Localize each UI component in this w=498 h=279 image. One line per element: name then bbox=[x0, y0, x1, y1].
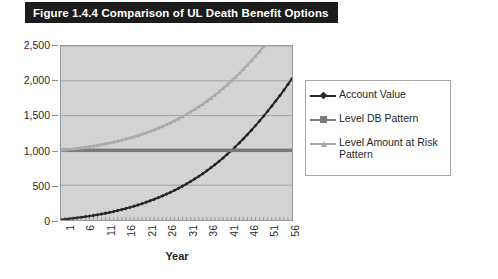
y-axis-tick-mark bbox=[52, 80, 58, 81]
y-axis-tick-mark bbox=[52, 221, 58, 222]
marker-square bbox=[238, 149, 241, 152]
marker-square bbox=[177, 149, 180, 152]
marker-square bbox=[213, 149, 216, 152]
x-axis-tick-label: 56 bbox=[289, 225, 301, 237]
legend-item-label: Level DB Pattern bbox=[339, 112, 418, 124]
x-axis-tick-label: 11 bbox=[105, 225, 117, 236]
x-axis-tick-label: 1 bbox=[64, 225, 76, 231]
marker-square bbox=[153, 149, 156, 152]
legend-marker-square-icon bbox=[310, 113, 336, 127]
x-axis-tick-label: 21 bbox=[146, 225, 158, 237]
marker-square bbox=[144, 149, 147, 152]
marker-square bbox=[96, 149, 99, 152]
marker-diamond bbox=[108, 211, 112, 215]
series-1 bbox=[61, 77, 292, 220]
marker-square bbox=[161, 149, 164, 152]
legend-marker-glyph bbox=[320, 116, 327, 123]
legend-marker-glyph bbox=[321, 141, 327, 147]
marker-square bbox=[266, 149, 269, 152]
marker-square bbox=[185, 149, 188, 152]
plot-area bbox=[60, 45, 293, 221]
marker-square bbox=[189, 149, 192, 152]
marker-square bbox=[136, 149, 139, 152]
marker-square bbox=[246, 149, 249, 152]
marker-square bbox=[169, 149, 172, 152]
legend-marker-triangle-icon bbox=[310, 137, 336, 151]
page-title: Figure 1.4.4 Comparison of UL Death Bene… bbox=[33, 7, 329, 19]
marker-square bbox=[157, 149, 160, 152]
x-axis-tick-label: 6 bbox=[84, 225, 96, 231]
marker-diamond bbox=[100, 212, 104, 216]
legend-item[interactable]: Account Value bbox=[310, 88, 446, 103]
y-axis-tick-mark bbox=[52, 151, 58, 152]
marker-square bbox=[221, 149, 224, 152]
marker-square bbox=[262, 149, 265, 152]
legend-item[interactable]: Level Amount at Risk Pattern bbox=[310, 136, 446, 160]
figure-title-banner: Figure 1.4.4 Comparison of UL Death Bene… bbox=[25, 2, 338, 23]
x-axis-tick-label: 51 bbox=[268, 225, 280, 237]
marker-square bbox=[88, 149, 91, 152]
marker-square bbox=[108, 149, 111, 152]
marker-square bbox=[165, 149, 168, 152]
y-axis-tick-label: 500 bbox=[32, 180, 50, 192]
marker-square bbox=[193, 149, 196, 152]
marker-square bbox=[100, 149, 103, 152]
x-axis-tick-label: 36 bbox=[207, 225, 219, 237]
marker-square bbox=[205, 149, 208, 152]
marker-square bbox=[250, 149, 253, 152]
legend-item-label: Account Value bbox=[339, 88, 406, 100]
x-axis-title: Year bbox=[60, 250, 294, 262]
chart-legend: Account ValueLevel DB PatternLevel Amoun… bbox=[305, 80, 451, 176]
x-axis-tick-label: 41 bbox=[228, 225, 240, 237]
marker-diamond bbox=[96, 213, 100, 217]
marker-square bbox=[112, 149, 115, 152]
y-axis: 05001,0001,5002,0002,500 bbox=[0, 24, 58, 244]
marker-square bbox=[197, 149, 200, 152]
legend-item-label: Level Amount at Risk Pattern bbox=[339, 136, 446, 160]
x-axis-tick-label: 26 bbox=[166, 225, 178, 237]
marker-square bbox=[217, 149, 220, 152]
marker-square bbox=[242, 149, 245, 152]
x-axis-tick-label: 46 bbox=[248, 225, 260, 237]
marker-square bbox=[254, 149, 257, 152]
marker-square bbox=[120, 149, 123, 152]
x-axis-tick-label: 16 bbox=[125, 225, 137, 237]
marker-diamond bbox=[104, 211, 108, 215]
marker-square bbox=[181, 149, 184, 152]
marker-square bbox=[84, 149, 87, 152]
x-axis-tick-label: 31 bbox=[187, 225, 199, 237]
marker-square bbox=[278, 149, 281, 152]
marker-square bbox=[92, 149, 95, 152]
marker-square bbox=[140, 149, 143, 152]
y-axis-tick-label: 0 bbox=[44, 215, 50, 227]
marker-square bbox=[274, 149, 277, 152]
legend-marker-glyph bbox=[320, 92, 328, 100]
plot-svg bbox=[61, 46, 292, 220]
y-axis-tick-label: 1,000 bbox=[24, 145, 50, 157]
marker-square bbox=[124, 149, 127, 152]
marker-square bbox=[230, 149, 233, 152]
marker-square bbox=[132, 149, 135, 152]
marker-square bbox=[209, 149, 212, 152]
series-3 bbox=[61, 46, 292, 152]
legend-marker-diamond-icon bbox=[310, 89, 336, 103]
marker-square bbox=[258, 149, 261, 152]
marker-square bbox=[104, 149, 107, 152]
y-axis-tick-mark bbox=[52, 115, 58, 116]
series-2 bbox=[61, 149, 292, 152]
marker-square bbox=[234, 149, 237, 152]
marker-square bbox=[270, 149, 273, 152]
marker-diamond bbox=[92, 214, 96, 218]
marker-square bbox=[116, 149, 119, 152]
marker-square bbox=[201, 149, 204, 152]
series-line bbox=[61, 46, 292, 150]
y-axis-tick-label: 2,500 bbox=[24, 39, 50, 51]
y-axis-tick-mark bbox=[52, 186, 58, 187]
marker-square bbox=[173, 149, 176, 152]
marker-square bbox=[225, 149, 228, 152]
chart-container: 05001,0001,5002,0002,500 161116212631364… bbox=[0, 24, 498, 279]
marker-square bbox=[148, 149, 151, 152]
legend-item[interactable]: Level DB Pattern bbox=[310, 112, 446, 127]
marker-square bbox=[128, 149, 131, 152]
marker-square bbox=[286, 149, 289, 152]
